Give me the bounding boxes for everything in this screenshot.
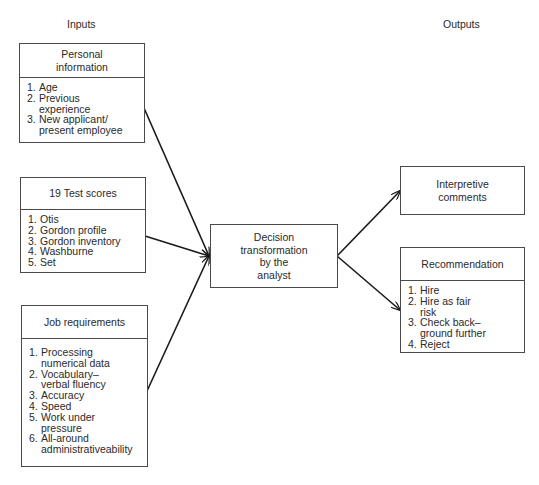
interpretive-comments-box: Interpretive comments	[400, 166, 525, 215]
list-item: 3.New applicant/ present employee	[27, 114, 144, 136]
arrow-personal-to-decision	[144, 108, 209, 256]
test-scores-list: 1.Otis 2.Gordon profile 3.Gordon invento…	[28, 214, 145, 268]
test-scores-box: 19 Test scores 1.Otis 2.Gordon profile 3…	[20, 177, 146, 273]
list-item: 4.Reject	[408, 339, 524, 350]
inputs-label: Inputs	[67, 18, 96, 30]
box-header: Recommendation	[401, 248, 524, 281]
list-item: 3.Check back– ground further	[408, 317, 524, 339]
job-requirements-list: 1.Processing numerical data 2.Vocabulary…	[29, 347, 147, 455]
list-item: 2.Gordon profile	[28, 225, 145, 236]
list-item: 2.Hire as fair risk	[408, 296, 524, 318]
arrow-jobreq-to-decision	[147, 256, 209, 391]
arrow-decision-to-interpretive	[337, 191, 400, 256]
arrow-decision-to-recommendation	[337, 256, 400, 310]
recommendation-list: 1.Hire 2.Hire as fair risk 3.Check back–…	[408, 285, 524, 350]
personal-information-box: Personal information 1.Age 2.Previous ex…	[19, 43, 145, 143]
list-item: 5.Set	[28, 257, 145, 268]
arrow-tests-to-decision	[145, 236, 209, 256]
list-item: 2.Previous experience	[27, 93, 144, 115]
list-item: 2.Vocabulary– verbal fluency	[29, 369, 147, 391]
box-header: Job requirements	[22, 306, 147, 339]
list-item: 1.Processing numerical data	[29, 347, 147, 369]
list-item: 6.All-around administrativeability	[29, 433, 147, 455]
box-header: Personal information	[20, 44, 144, 78]
personal-information-list: 1.Age 2.Previous experience 3.New applic…	[27, 82, 144, 136]
job-requirements-box: Job requirements 1.Processing numerical …	[21, 305, 148, 467]
box-header: 19 Test scores	[21, 178, 145, 210]
recommendation-box: Recommendation 1.Hire 2.Hire as fair ris…	[400, 247, 525, 353]
outputs-label: Outputs	[443, 18, 480, 30]
decision-transformation-box: Decision transformation by the analyst	[210, 224, 338, 288]
list-item: 5.Work under pressure	[29, 412, 147, 434]
